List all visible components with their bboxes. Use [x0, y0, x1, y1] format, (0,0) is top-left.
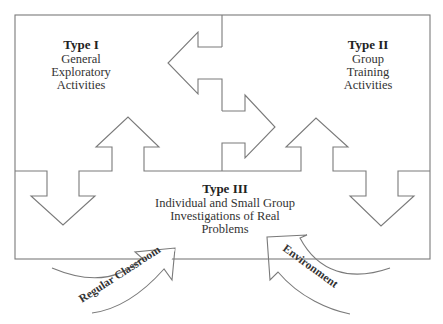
- type-iii-title: Type III: [140, 182, 310, 195]
- regular-classroom-label: Regular Classroom: [77, 243, 164, 306]
- type-iii-label: Type III Individual and Small Group Inve…: [140, 182, 310, 236]
- type-ii-label: Type II Group Training Activities: [333, 38, 403, 92]
- type-iii-line-3: Problems: [140, 223, 310, 236]
- type-i-line-3: Activities: [46, 79, 116, 92]
- type-ii-line-3: Activities: [333, 79, 403, 92]
- arrow-right-to-type-ii: [222, 95, 275, 171]
- environment-label: Environment: [281, 242, 341, 290]
- type-ii-title: Type II: [333, 38, 403, 51]
- type-i-label: Type I General Exploratory Activities: [46, 38, 116, 92]
- type-i-title: Type I: [46, 38, 116, 51]
- arrow-left-to-type-i: [168, 32, 222, 111]
